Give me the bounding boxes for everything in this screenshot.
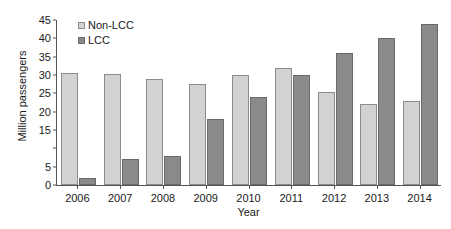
y-tick-label: 0 (29, 180, 51, 191)
bar-lcc-2010 (250, 97, 267, 185)
bar-lcc-2007 (122, 159, 139, 185)
bar-group (228, 20, 271, 185)
y-tick-label: 25 (29, 88, 51, 99)
y-tick-mark (53, 130, 56, 131)
y-tick-mark (53, 111, 56, 112)
legend-label: LCC (88, 34, 110, 46)
bar-lcc-2012 (336, 53, 353, 185)
bar-lcc-2011 (293, 75, 310, 185)
legend-swatch-icon (78, 22, 85, 29)
y-tick-label: 15 (29, 125, 51, 136)
bar-lcc-2008 (164, 156, 181, 185)
legend: Non-LCCLCC (78, 18, 134, 48)
bar-non-lcc-2011 (275, 68, 292, 185)
bar-lcc-2013 (378, 38, 395, 185)
y-tick-mark (53, 38, 56, 39)
y-tick-mark (53, 185, 56, 186)
bar-non-lcc-2008 (146, 79, 163, 185)
x-tick-label-2012: 2012 (322, 192, 346, 204)
y-tick-label: 5 (29, 161, 51, 172)
legend-label: Non-LCC (88, 19, 134, 31)
bar-group (271, 20, 314, 185)
y-tick-mark (53, 148, 56, 149)
bar-non-lcc-2006 (61, 73, 78, 185)
y-tick-label: 45 (29, 15, 51, 26)
bar-non-lcc-2010 (232, 75, 249, 185)
x-tick-label-2011: 2011 (279, 192, 303, 204)
x-tick-mark (291, 186, 292, 189)
x-tick-label-2006: 2006 (65, 192, 89, 204)
legend-item-non-lcc: Non-LCC (78, 18, 134, 32)
x-tick-label-2009: 2009 (193, 192, 217, 204)
legend-item-lcc: LCC (78, 33, 134, 47)
x-tick-label-2007: 2007 (108, 192, 132, 204)
x-tick-mark (249, 186, 250, 189)
bar-group (143, 20, 186, 185)
x-tick-label-2014: 2014 (407, 192, 431, 204)
bar-group (356, 20, 399, 185)
bar-non-lcc-2014 (403, 101, 420, 185)
bar-group (185, 20, 228, 185)
x-tick-mark (206, 186, 207, 189)
x-tick-mark (420, 186, 421, 189)
x-tick-label-2010: 2010 (236, 192, 260, 204)
x-tick-mark (334, 186, 335, 189)
x-tick-mark (120, 186, 121, 189)
x-tick-label-2013: 2013 (365, 192, 389, 204)
x-tick-label-2008: 2008 (151, 192, 175, 204)
y-tick-mark (53, 20, 56, 21)
bar-chart: Million passengers 0515202530354045 2006… (0, 0, 451, 229)
bar-non-lcc-2009 (189, 84, 206, 185)
y-tick-mark (53, 56, 56, 57)
bar-lcc-2014 (421, 24, 438, 185)
bar-non-lcc-2012 (318, 92, 335, 186)
x-tick-mark (77, 186, 78, 189)
y-axis-title: Million passengers (14, 6, 30, 186)
bar-non-lcc-2013 (360, 104, 377, 185)
y-tick-label: 40 (29, 33, 51, 44)
x-tick-mark (377, 186, 378, 189)
bar-group (314, 20, 357, 185)
y-tick-mark (53, 75, 56, 76)
bar-lcc-2006 (79, 178, 96, 185)
x-axis-title: Year (56, 206, 441, 218)
bar-non-lcc-2007 (104, 74, 121, 185)
x-tick-mark (163, 186, 164, 189)
y-tick-mark (53, 93, 56, 94)
y-tick-mark (53, 166, 56, 167)
bar-group (399, 20, 442, 185)
y-tick-label: 30 (29, 70, 51, 81)
y-tick-label: 20 (29, 106, 51, 117)
bar-lcc-2009 (207, 119, 224, 185)
y-tick-label: 35 (29, 51, 51, 62)
legend-swatch-icon (78, 37, 85, 44)
